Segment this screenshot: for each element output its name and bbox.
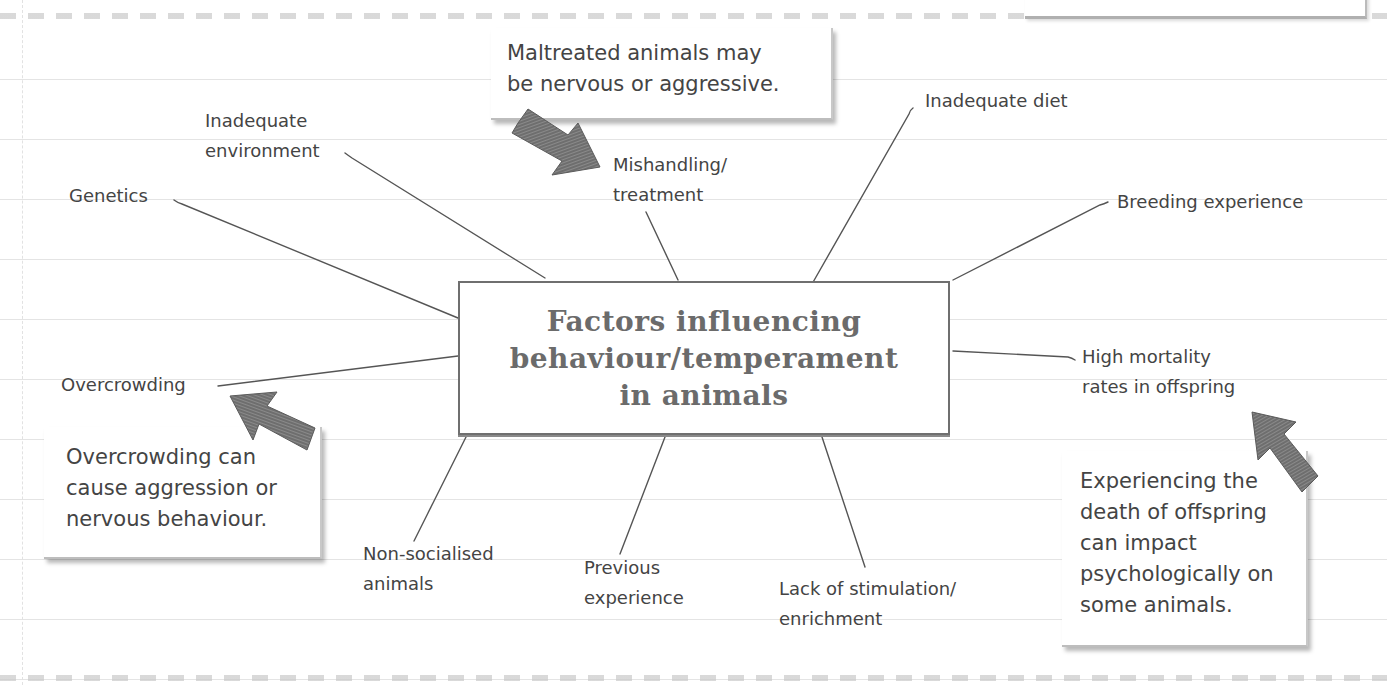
- note-text: cause aggression or: [66, 473, 298, 504]
- factor-genetics: Genetics: [69, 181, 148, 211]
- factor-text: Breeding experience: [1117, 187, 1303, 217]
- line-overcrowding: [218, 356, 458, 386]
- factor-non-socialised: Non-socialised animals: [363, 539, 494, 599]
- factor-text: enrichment: [779, 604, 956, 634]
- factor-text: Lack of stimulation/: [779, 574, 956, 604]
- factor-high-mortality: High mortality rates in offspring: [1082, 342, 1235, 402]
- central-topic-box: Factors influencing behaviour/temperamen…: [458, 281, 950, 435]
- note-text: be nervous or aggressive.: [507, 69, 815, 100]
- factor-text: experience: [584, 583, 684, 613]
- line-lack-of-stimulation: [822, 437, 865, 567]
- note-text: Maltreated animals may: [507, 38, 815, 69]
- note-text: some animals.: [1080, 590, 1288, 621]
- factor-text: Previous: [584, 553, 684, 583]
- note-text: death of offspring: [1080, 497, 1288, 528]
- note-text: nervous behaviour.: [66, 504, 298, 535]
- factor-text: High mortality: [1082, 342, 1235, 372]
- factor-text: Inadequate diet: [925, 86, 1068, 116]
- factor-overcrowding: Overcrowding: [61, 370, 186, 400]
- factor-inadequate-environment: Inadequate environment: [205, 106, 320, 166]
- factor-text: environment: [205, 136, 320, 166]
- factor-text: treatment: [613, 180, 727, 210]
- line-breeding-experience: [953, 202, 1108, 280]
- arrow-up-icon: [1250, 408, 1322, 498]
- note-text: can impact: [1080, 528, 1288, 559]
- factor-mishandling: Mishandling/ treatment: [613, 150, 727, 210]
- factor-breeding-experience: Breeding experience: [1117, 187, 1303, 217]
- arrow-down-right-icon: [510, 105, 605, 180]
- title-line-1: Factors influencing: [510, 303, 899, 340]
- factor-inadequate-diet: Inadequate diet: [925, 86, 1068, 116]
- factor-text: Non-socialised: [363, 539, 494, 569]
- factor-text: Genetics: [69, 181, 148, 211]
- line-previous-experience: [620, 437, 665, 554]
- line-non-socialised: [414, 437, 466, 541]
- arrow-up-left-icon: [225, 388, 320, 458]
- factor-text: animals: [363, 569, 494, 599]
- factor-lack-of-stimulation: Lack of stimulation/ enrichment: [779, 574, 956, 634]
- factor-previous-experience: Previous experience: [584, 553, 684, 613]
- note-text: psychologically on: [1080, 559, 1288, 590]
- central-topic-title: Factors influencing behaviour/temperamen…: [510, 303, 899, 414]
- line-genetics: [174, 200, 458, 318]
- factor-text: rates in offspring: [1082, 372, 1235, 402]
- line-high-mortality: [953, 351, 1075, 360]
- line-mishandling: [646, 212, 678, 280]
- factor-text: Inadequate: [205, 106, 320, 136]
- title-line-2: behaviour/temperament: [510, 340, 899, 377]
- title-line-3: in animals: [510, 377, 899, 414]
- line-inadequate-diet: [812, 108, 913, 284]
- factor-text: Mishandling/: [613, 150, 727, 180]
- factor-text: Overcrowding: [61, 370, 186, 400]
